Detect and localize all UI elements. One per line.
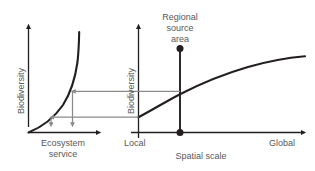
regional-source-area-dot-bottom bbox=[177, 129, 184, 136]
connector-lower bbox=[51, 117, 139, 124]
right-y-axis-label: Biodiversity bbox=[126, 68, 137, 114]
regional-source-area-label-line1: Regional bbox=[152, 12, 208, 23]
right-x-axis-label: Spatial scale bbox=[152, 151, 250, 162]
figure-container: Biodiversity Ecosystem service Biodivers… bbox=[0, 0, 315, 171]
left-x-axis-label-line1: Ecosystem bbox=[30, 138, 96, 149]
regional-source-area-dot-top bbox=[177, 45, 184, 52]
left-y-axis-label: Biodiversity bbox=[16, 68, 27, 114]
regional-source-area-label-line3: area bbox=[152, 34, 208, 45]
right-curve bbox=[139, 56, 306, 117]
regional-source-area-indicator bbox=[177, 45, 184, 136]
regional-source-area-label-line2: source bbox=[152, 23, 208, 34]
right-x-axis-tick-global: Global bbox=[269, 138, 295, 149]
right-x-axis-tick-local: Local bbox=[124, 138, 146, 149]
left-x-axis-label-line2: service bbox=[30, 149, 96, 160]
